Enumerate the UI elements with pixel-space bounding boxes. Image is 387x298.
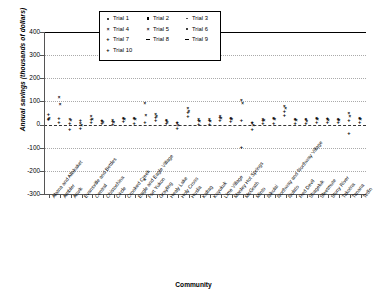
data-point-plus: +: [111, 119, 114, 124]
data-point-plus: +: [229, 116, 232, 121]
legend-label: Trial 7: [113, 36, 129, 42]
y-tick-label: -300: [6, 191, 40, 197]
data-point-x: ×: [241, 100, 244, 105]
legend-marker-x: ×: [144, 26, 152, 33]
y-tick-label: 300: [6, 52, 40, 58]
data-point-plus: +: [272, 116, 275, 121]
legend-marker-x: ×: [104, 26, 112, 33]
y-tick-mark: [40, 171, 44, 172]
legend: Trial 1Trial 2Trial 3×Trial 4×Trial 5Tri…: [99, 11, 221, 61]
y-tick-mark: [40, 101, 44, 102]
data-point-plus: +: [186, 109, 189, 114]
data-point-plus: +: [251, 126, 254, 131]
legend-label: Trial 3: [192, 15, 208, 21]
data-point-plus: +: [57, 119, 60, 124]
legend-label: Trial 1: [113, 15, 129, 21]
data-point-x: ×: [59, 101, 62, 106]
y-tick-label: 0: [6, 121, 40, 127]
data-point-plus: +: [293, 116, 296, 121]
data-point-plus: +: [240, 144, 243, 149]
y-tick-mark: [40, 32, 44, 33]
gridline: [44, 101, 366, 102]
data-point-plus: +: [347, 118, 350, 123]
data-point-plus: +: [304, 116, 307, 121]
y-tick-mark: [40, 148, 44, 149]
data-point-plus: +: [336, 116, 339, 121]
legend-label: Trial 8: [153, 36, 169, 42]
legend-label: Trial 9: [192, 36, 208, 42]
data-point-plus: +: [186, 114, 189, 119]
data-point-plus: +: [175, 126, 178, 131]
y-tick-label: 400: [6, 29, 40, 35]
data-point-plus: +: [218, 115, 221, 120]
data-point-plus: +: [197, 118, 200, 123]
data-point-plus: +: [47, 117, 50, 122]
data-point-plus: +: [326, 116, 329, 121]
data-point-plus: +: [251, 119, 254, 124]
y-tick-label: 100: [6, 98, 40, 104]
data-point-plus: +: [68, 126, 71, 131]
gridline: [44, 171, 366, 172]
data-point-plus: +: [261, 117, 264, 122]
data-point-plus: +: [347, 131, 350, 136]
legend-label: Trial 5: [153, 26, 169, 32]
y-tick-mark: [40, 78, 44, 79]
y-axis-line: [44, 32, 45, 194]
legend-label: Trial 4: [113, 26, 129, 32]
data-point-plus: +: [122, 116, 125, 121]
legend-marker-plus: +: [104, 36, 112, 42]
legend-marker-plus: +: [104, 47, 112, 53]
data-point-plus: +: [132, 116, 135, 121]
data-point-plus: +: [100, 118, 103, 123]
data-point-plus: +: [208, 118, 211, 123]
data-point-plus: +: [315, 115, 318, 120]
data-point-plus: +: [304, 121, 307, 126]
scatter-chart: Annual savings (thousands of dollars) 40…: [0, 0, 387, 298]
data-point-plus: +: [165, 117, 168, 122]
legend-marker-dash: [183, 36, 191, 42]
y-axis-tick-labels: 4003002001000-100-200-300: [0, 0, 40, 298]
data-point-plus: +: [175, 119, 178, 124]
data-point-x: ×: [145, 113, 148, 118]
legend-label: Trial 6: [192, 26, 208, 32]
gridline: [44, 125, 366, 126]
data-point-plus: +: [358, 115, 361, 120]
data-point-plus: +: [79, 118, 82, 123]
data-point-plus: +: [154, 115, 157, 120]
x-axis-title: Community: [0, 281, 387, 288]
data-point-plus: +: [143, 176, 146, 181]
legend-marker-dot: [104, 15, 112, 21]
y-tick-mark: [40, 194, 44, 195]
y-tick-mark: [40, 55, 44, 56]
data-point-plus: +: [283, 113, 286, 118]
y-tick-label: 200: [6, 75, 40, 81]
data-point-plus: +: [132, 120, 135, 125]
y-tick-label: -100: [6, 145, 40, 151]
legend-marker-square: [144, 15, 152, 21]
legend-marker-tiny: [183, 15, 191, 21]
data-point-x: ×: [144, 100, 147, 105]
data-point-plus: +: [283, 108, 286, 113]
data-point-plus: +: [143, 120, 146, 125]
gridline: [44, 78, 366, 79]
legend-marker-dot: [183, 26, 191, 32]
y-tick-label: -200: [6, 168, 40, 174]
legend-label: Trial 2: [153, 15, 169, 21]
y-tick-mark: [40, 125, 44, 126]
data-point-x: ×: [58, 94, 61, 99]
data-point-plus: +: [272, 120, 275, 125]
data-point-plus: +: [90, 117, 93, 122]
legend-marker-dash: [144, 36, 152, 42]
data-point-plus: +: [240, 118, 243, 123]
data-point-plus: +: [79, 126, 82, 131]
legend-label: Trial 10: [113, 47, 132, 53]
